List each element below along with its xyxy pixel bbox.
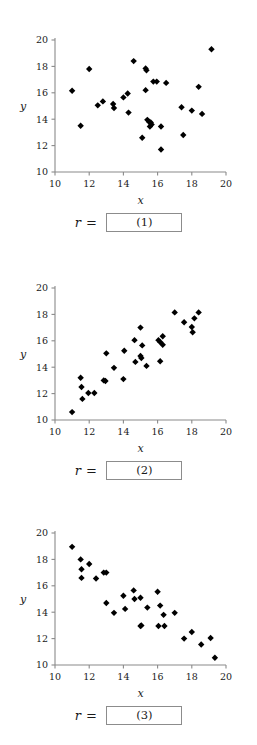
data-point <box>212 655 218 661</box>
data-point <box>125 109 131 115</box>
scatter-chart-3: 101214161820101214161820xy <box>0 493 257 698</box>
svg-text:12: 12 <box>36 633 48 644</box>
plot-block-1: 101214161820101214161820xy r = (1) <box>0 0 257 248</box>
svg-text:16: 16 <box>152 178 164 189</box>
data-point <box>111 365 117 371</box>
data-point <box>178 104 184 110</box>
svg-text:12: 12 <box>36 388 48 399</box>
data-point <box>144 604 150 610</box>
data-point <box>207 635 213 641</box>
data-point <box>154 78 160 84</box>
data-point <box>121 348 127 354</box>
answer-box-3[interactable]: (3) <box>106 706 182 725</box>
svg-text:x: x <box>137 687 144 698</box>
data-point <box>181 635 187 641</box>
svg-text:16: 16 <box>152 426 164 437</box>
svg-text:14: 14 <box>117 426 129 437</box>
r-label-2: r = <box>75 463 98 478</box>
plot-block-3: 101214161820101214161820xy r = (3) <box>0 493 257 745</box>
data-point <box>189 324 195 330</box>
svg-text:10: 10 <box>49 426 61 437</box>
r-label-3: r = <box>75 708 98 723</box>
data-point <box>95 102 101 108</box>
data-point <box>143 363 149 369</box>
svg-text:14: 14 <box>117 178 129 189</box>
svg-text:14: 14 <box>117 671 129 682</box>
svg-text:y: y <box>19 593 27 606</box>
svg-text:20: 20 <box>220 671 232 682</box>
data-point <box>199 111 205 117</box>
svg-text:20: 20 <box>220 426 232 437</box>
svg-text:12: 12 <box>83 671 95 682</box>
svg-text:18: 18 <box>36 554 48 565</box>
scatter-chart-1: 101214161820101214161820xy <box>0 0 257 205</box>
svg-text:10: 10 <box>49 671 61 682</box>
data-point <box>132 359 138 365</box>
data-point <box>160 333 166 339</box>
data-point <box>103 600 109 606</box>
data-point <box>91 390 97 396</box>
svg-text:12: 12 <box>36 140 48 151</box>
svg-text:14: 14 <box>36 114 48 125</box>
data-point <box>77 123 83 129</box>
data-point <box>131 596 137 602</box>
svg-text:18: 18 <box>186 671 198 682</box>
svg-text:14: 14 <box>36 362 48 373</box>
svg-text:20: 20 <box>36 282 48 293</box>
svg-text:x: x <box>137 442 144 453</box>
svg-text:10: 10 <box>36 166 48 177</box>
svg-text:12: 12 <box>83 426 95 437</box>
svg-text:16: 16 <box>36 335 48 346</box>
svg-text:18: 18 <box>36 309 48 320</box>
data-point <box>86 66 92 72</box>
data-point <box>120 376 126 382</box>
data-point <box>163 80 169 86</box>
data-point <box>139 342 145 348</box>
svg-text:y: y <box>19 100 27 113</box>
data-point <box>78 384 84 390</box>
data-point <box>85 390 91 396</box>
svg-text:18: 18 <box>186 178 198 189</box>
svg-text:16: 16 <box>152 671 164 682</box>
data-point <box>139 134 145 140</box>
data-point <box>155 623 161 629</box>
data-point <box>158 123 164 129</box>
data-point <box>180 132 186 138</box>
svg-text:20: 20 <box>36 527 48 538</box>
answer-row-3: r = (3) <box>0 698 257 732</box>
svg-text:20: 20 <box>220 178 232 189</box>
data-point <box>111 610 117 616</box>
data-point <box>181 319 187 325</box>
answer-box-1[interactable]: (1) <box>106 213 182 232</box>
data-point <box>172 610 178 616</box>
data-point <box>157 358 163 364</box>
data-point <box>77 556 83 562</box>
svg-text:y: y <box>19 348 27 361</box>
data-point <box>78 566 84 572</box>
data-point <box>79 396 85 402</box>
data-point <box>130 587 136 593</box>
chart-3-area: 101214161820101214161820xy <box>0 493 257 698</box>
data-point <box>137 594 143 600</box>
data-point <box>160 612 166 618</box>
data-point <box>100 98 106 104</box>
data-point <box>130 58 136 64</box>
data-point <box>124 90 130 96</box>
answer-box-2[interactable]: (2) <box>106 461 182 480</box>
data-point <box>103 350 109 356</box>
data-point <box>198 641 204 647</box>
scatter-chart-2: 101214161820101214161820xy <box>0 248 257 453</box>
data-point <box>161 623 167 629</box>
plot-block-2: 101214161820101214161820xy r = (2) <box>0 248 257 493</box>
data-point <box>195 84 201 90</box>
data-point <box>78 575 84 581</box>
svg-text:16: 16 <box>36 580 48 591</box>
svg-text:20: 20 <box>36 34 48 45</box>
data-point <box>208 46 214 52</box>
svg-text:18: 18 <box>186 426 198 437</box>
data-point <box>77 375 83 381</box>
data-point <box>122 606 128 612</box>
scatter-plot-figure-stack: 101214161820101214161820xy r = (1) 10121… <box>0 0 257 745</box>
data-point <box>172 309 178 315</box>
chart-2-area: 101214161820101214161820xy <box>0 248 257 453</box>
